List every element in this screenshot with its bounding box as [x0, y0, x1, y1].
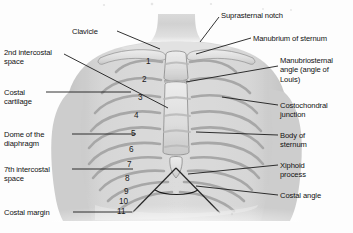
- label-dome-of-the-diaphragm: Dome of the diaphragm: [4, 130, 44, 149]
- rib-number-1: 1: [146, 58, 151, 66]
- label-body-of-sternum: Body of sternum: [280, 131, 307, 150]
- anterior-thorax-figure: 2nd intercostal spaceCostal cartilageDom…: [0, 0, 353, 233]
- label-manubriosternal-angle: Manubriosternal angle (angle of Louis): [280, 56, 333, 84]
- leader-costochondral-junction: [222, 97, 278, 105]
- rib-number-4: 4: [134, 112, 139, 120]
- rib-number-3: 3: [138, 94, 143, 102]
- rib-number-11: 11: [117, 208, 126, 216]
- leader-manubriosternal-angle: [186, 66, 278, 82]
- leader-suprasternal-notch: [200, 17, 219, 42]
- leader-manubrium: [196, 38, 251, 54]
- leader-body-of-sternum: [196, 132, 278, 135]
- label-clavicle: Clavicle: [72, 27, 98, 36]
- rib-number-5: 5: [131, 130, 136, 138]
- label-costal-margin: Costal margin: [4, 208, 50, 217]
- label-costochondral-junction: Costochondral junction: [280, 101, 328, 120]
- label-seventh-intercostal-space: 7th intercostal space: [4, 165, 50, 184]
- label-costal-angle: Costal angle: [280, 191, 321, 200]
- leader-xiphoid-process: [188, 165, 278, 174]
- label-xiphoid-process: Xiphoid process: [280, 161, 306, 180]
- rib-number-2: 2: [142, 76, 147, 84]
- rib-number-8: 8: [125, 175, 130, 183]
- leader-second-intercostal: [64, 54, 168, 108]
- label-manubrium-of-sternum: Manubrium of sternum: [253, 34, 327, 43]
- rib-number-9: 9: [124, 188, 129, 196]
- leader-costal-angle: [196, 186, 278, 195]
- label-second-intercostal-space: 2nd intercostal space: [4, 48, 52, 67]
- rib-number-7: 7: [127, 161, 132, 169]
- rib-number-6: 6: [129, 146, 134, 154]
- leader-clavicle: [117, 31, 160, 49]
- label-suprasternal-notch: Suprasternal notch: [221, 11, 283, 20]
- label-costal-cartilage: Costal cartilage: [4, 88, 32, 107]
- rib-number-10: 10: [119, 198, 128, 206]
